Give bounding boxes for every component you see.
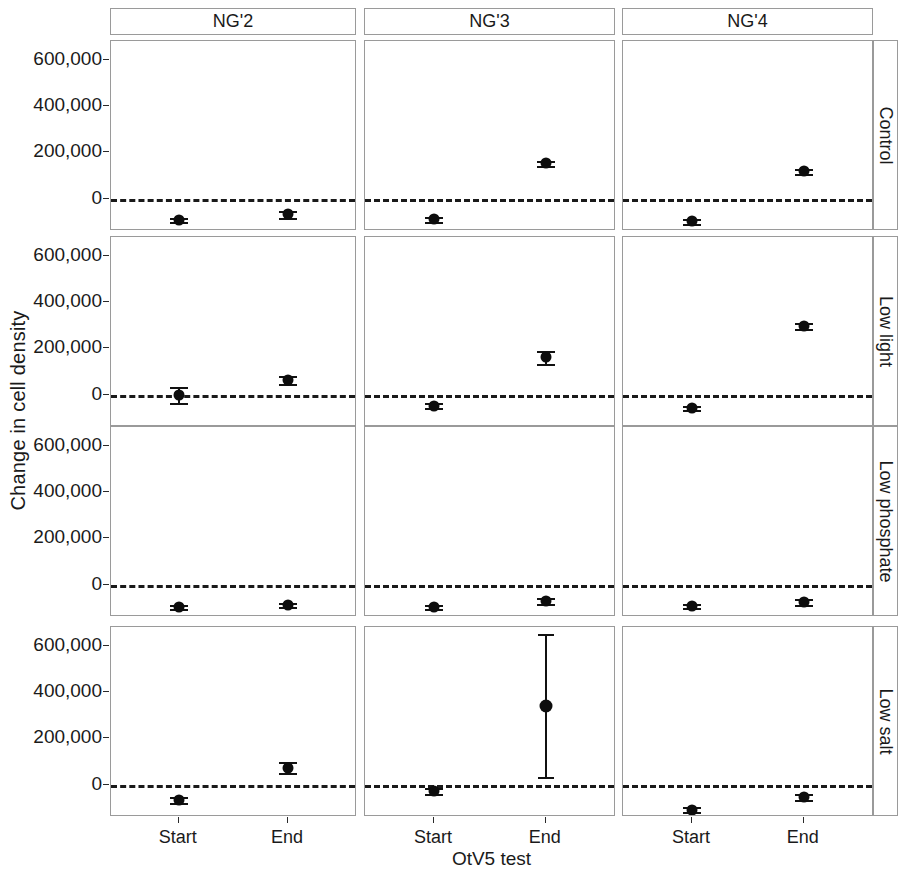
data-point[interactable]: [687, 600, 698, 611]
facet-panel: [364, 426, 615, 616]
y-axis-tick-mark: [103, 59, 109, 60]
y-axis-tick-mark: [103, 347, 109, 348]
y-axis-tick-mark: [103, 198, 109, 199]
zero-reference-line: [365, 785, 614, 788]
facet-panel: [364, 40, 615, 230]
data-point[interactable]: [540, 158, 551, 169]
column-strip-text: NG'2: [213, 11, 253, 32]
row-strip-label: Low phosphate: [873, 426, 898, 616]
facet-panel: [622, 426, 873, 616]
x-axis-tick-label: End: [500, 827, 590, 848]
row-strip-label: Low salt: [873, 626, 898, 816]
x-axis-tick-label: Start: [133, 827, 223, 848]
error-bar-cap-lower: [538, 777, 554, 779]
row-strip-label: Low light: [873, 236, 898, 426]
data-point[interactable]: [429, 601, 440, 612]
x-axis-tick-mark: [691, 817, 692, 823]
data-point[interactable]: [687, 403, 698, 414]
data-point[interactable]: [687, 216, 698, 227]
data-point[interactable]: [798, 166, 809, 177]
x-axis-tick-label: End: [758, 827, 848, 848]
zero-reference-line: [111, 785, 355, 788]
data-point[interactable]: [687, 804, 698, 815]
facet-panel: [110, 426, 356, 616]
facet-panel: [110, 626, 356, 816]
facet-panel: [622, 626, 873, 816]
zero-reference-line: [365, 395, 614, 398]
x-axis-tick-mark: [287, 817, 288, 823]
y-axis-tick-label: 200,000: [6, 337, 102, 356]
y-axis-tick-label: 600,000: [6, 635, 102, 654]
data-point[interactable]: [173, 214, 184, 225]
row-strip-text: Low salt: [875, 688, 896, 754]
x-axis-tick-label: Start: [388, 827, 478, 848]
error-bar-cap-lower: [537, 364, 555, 366]
zero-reference-line: [623, 785, 872, 788]
zero-reference-line: [623, 395, 872, 398]
data-point[interactable]: [429, 400, 440, 411]
y-axis-tick-mark: [103, 584, 109, 585]
column-strip-label: NG'3: [364, 8, 615, 35]
y-axis-tick-label: 0: [6, 574, 102, 593]
zero-reference-line: [623, 585, 872, 588]
data-point[interactable]: [798, 320, 809, 331]
data-point[interactable]: [173, 602, 184, 613]
data-point[interactable]: [283, 762, 294, 773]
data-point[interactable]: [798, 597, 809, 608]
zero-reference-line: [111, 395, 355, 398]
zero-reference-line: [623, 199, 872, 202]
y-axis-tick-mark: [103, 394, 109, 395]
row-strip-text: Low phosphate: [875, 460, 896, 582]
y-axis-tick-mark: [103, 784, 109, 785]
y-axis-tick-label: 200,000: [6, 527, 102, 546]
error-bar-cap-upper: [170, 387, 188, 389]
x-axis-tick-mark: [433, 817, 434, 823]
zero-reference-line: [111, 585, 355, 588]
x-axis-tick-mark: [178, 817, 179, 823]
faceted-scatter-chart: Change in cell density OtV5 test NG'2NG'…: [0, 0, 898, 880]
data-point[interactable]: [429, 214, 440, 225]
y-axis-tick-label: 0: [6, 384, 102, 403]
data-point[interactable]: [283, 209, 294, 220]
error-bar-cap-lower: [170, 403, 188, 405]
x-axis-title: OtV5 test: [110, 848, 873, 870]
facet-panel: [364, 236, 615, 426]
zero-reference-line: [365, 585, 614, 588]
x-axis-tick-label: Start: [646, 827, 736, 848]
x-axis-tick-label: End: [242, 827, 332, 848]
x-axis-tick-mark: [803, 817, 804, 823]
data-point[interactable]: [283, 375, 294, 386]
y-axis-tick-label: 400,000: [6, 95, 102, 114]
column-strip-label: NG'4: [622, 8, 873, 35]
facet-panel: [110, 40, 356, 230]
data-point[interactable]: [798, 792, 809, 803]
error-bar-cap-upper: [538, 634, 554, 636]
y-axis-tick-label: 600,000: [6, 49, 102, 68]
column-strip-label: NG'2: [110, 8, 356, 35]
y-axis-tick-label: 0: [6, 188, 102, 207]
data-point[interactable]: [173, 794, 184, 805]
error-bar-cap-lower: [279, 773, 297, 775]
facet-panel: [364, 626, 615, 816]
row-strip-label: Control: [873, 40, 898, 230]
row-strip-text: Control: [875, 106, 896, 164]
data-point[interactable]: [539, 699, 552, 712]
y-axis-tick-mark: [103, 105, 109, 106]
y-axis-tick-label: 0: [6, 774, 102, 793]
data-point[interactable]: [173, 390, 184, 401]
y-axis-tick-label: 600,000: [6, 435, 102, 454]
y-axis-tick-mark: [103, 445, 109, 446]
data-point[interactable]: [540, 352, 551, 363]
y-axis-tick-mark: [103, 255, 109, 256]
data-point[interactable]: [283, 599, 294, 610]
y-axis-tick-label: 600,000: [6, 245, 102, 264]
y-axis-tick-mark: [103, 645, 109, 646]
x-axis-title-text: OtV5 test: [452, 848, 531, 869]
data-point[interactable]: [429, 786, 440, 797]
data-point[interactable]: [540, 596, 551, 607]
y-axis-tick-mark: [103, 301, 109, 302]
y-axis-tick-mark: [103, 691, 109, 692]
y-axis-tick-label: 400,000: [6, 681, 102, 700]
y-axis-tick-label: 200,000: [6, 727, 102, 746]
facet-panel: [622, 40, 873, 230]
